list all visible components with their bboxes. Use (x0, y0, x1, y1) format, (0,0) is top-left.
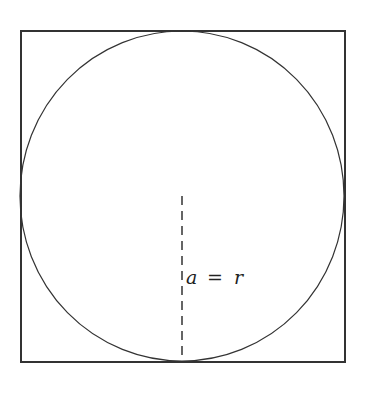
radius-label-r: r (234, 266, 245, 288)
radius-label-equals: = (207, 266, 223, 288)
diagram-canvas: a = r (0, 0, 366, 395)
radius-label-a: a (186, 266, 197, 288)
